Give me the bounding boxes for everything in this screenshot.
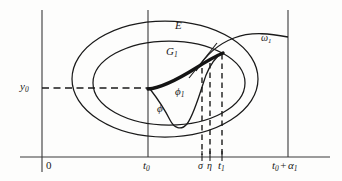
- region-G1-label: G1: [166, 46, 178, 59]
- phi1-label: ϕ1: [175, 86, 184, 99]
- t0-label: t0: [143, 160, 150, 173]
- y0-label-sub: 0: [25, 85, 29, 94]
- outer-region-E-boundary: [72, 21, 258, 137]
- sigma-label: σ: [198, 161, 203, 171]
- omega1-label: ω1: [261, 33, 271, 45]
- phi-label: ϕ: [157, 103, 163, 114]
- eta-label: η: [207, 161, 212, 171]
- t1-label-sub: 1: [221, 164, 225, 173]
- phi1-sub: 1: [181, 90, 185, 99]
- region-E-label: E: [175, 20, 182, 31]
- region-G1-sub: 1: [174, 50, 178, 59]
- t1-label: t1: [218, 160, 225, 173]
- phi1-curve: [148, 53, 223, 89]
- dashed-verticals-group: [202, 54, 222, 155]
- t-end-plus: +: [279, 159, 288, 171]
- junction-point-t1: [220, 52, 223, 55]
- omega1-base: ω: [261, 32, 268, 43]
- t0-label-sub: 0: [146, 164, 150, 173]
- omega1-sub: 1: [268, 37, 271, 44]
- t-end-alpha-sub: 1: [294, 164, 298, 173]
- figure-container: 0 y0 t0 σ η t1 t0+α1 E G1 ω1 ϕ1 ϕ: [0, 0, 342, 181]
- tangent-line: [189, 43, 217, 78]
- diagram-canvas: [0, 0, 342, 181]
- y0-label: y0: [20, 81, 29, 94]
- t-end-label: t0+α1: [272, 160, 298, 173]
- origin-label: 0: [46, 160, 52, 171]
- region-G1-base: G: [166, 45, 174, 57]
